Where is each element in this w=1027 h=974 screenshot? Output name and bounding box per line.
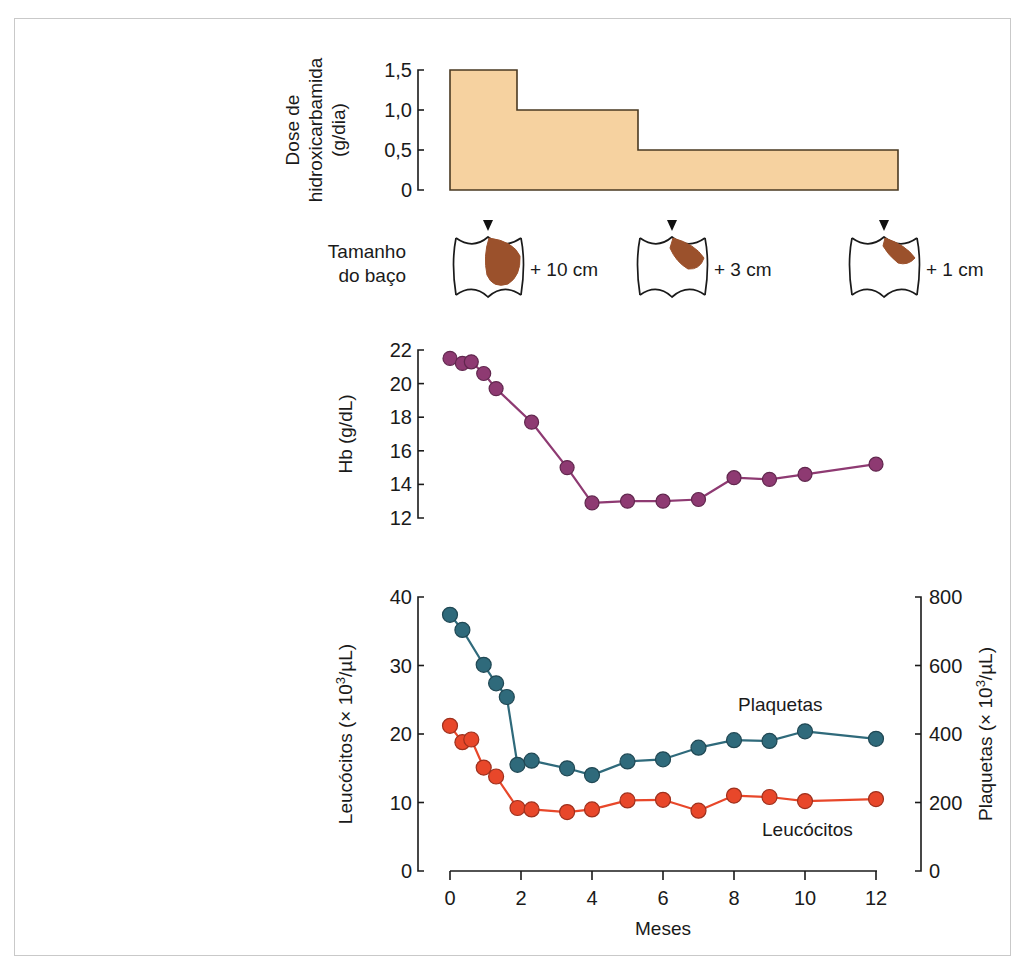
figure-border bbox=[14, 18, 1011, 956]
figure-page: Dose de hidroxicarbamida (g/dia) 1,5 1,0… bbox=[0, 0, 1027, 974]
